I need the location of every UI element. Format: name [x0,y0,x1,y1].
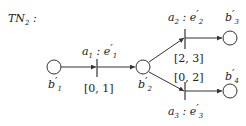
place-b1 [47,60,61,74]
transition-t3-interval: [0, 2] [174,71,204,84]
transition-t3-label: a3 : e′3 [168,102,204,120]
transition-t2-label: a2 : e′2 [168,8,204,26]
place-b4-label: b′4 [225,67,239,85]
petri-net-diagram: TN2 : b′1 a1 : e′1 [0, 1] b′2 a2 : e′2 [… [0,0,246,126]
place-b4 [223,84,237,98]
transition-t1-interval: [0, 1] [84,82,114,95]
place-b2 [136,60,150,74]
place-b3 [223,31,237,45]
place-b1-label: b′1 [48,75,62,93]
place-b3-label: b′3 [225,8,240,26]
transition-t2-interval: [2, 3] [174,52,204,65]
place-b2-label: b′2 [138,75,153,93]
net-title: TN2 : [8,12,37,27]
transition-t1-label: a1 : e′1 [82,42,117,60]
